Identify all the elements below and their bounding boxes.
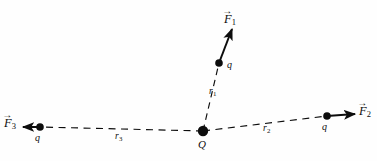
charge-label-q1: q — [227, 60, 232, 70]
force-subscript-F1: 1 — [232, 17, 236, 27]
distance-subscript-r1: 1 — [213, 90, 216, 97]
force-vector-F1 — [219, 29, 232, 63]
force-label-F2: → F 2 — [359, 105, 371, 119]
force-vector-F2 — [327, 114, 355, 116]
radius-line-r3 — [40, 127, 203, 131]
force-label-F1: → F 1 — [224, 13, 236, 27]
force-vector-glyph-stack-F1: → F — [224, 13, 232, 26]
distance-subscript-r3: 3 — [119, 135, 122, 142]
physics-force-diagram: q q q Q r1 r2 r3 → F 1 → F 2 → F 3 — [0, 0, 377, 161]
force-subscript-F2: 2 — [367, 109, 371, 119]
charge-label-Q: Q — [198, 139, 206, 150]
charge-label-q2: q — [322, 122, 327, 132]
vector-arrow-icon-F1: → — [222, 6, 232, 16]
charge-dot-Q — [198, 126, 208, 136]
force-vector-glyph-stack-F3: → F — [4, 117, 12, 130]
distance-label-r1: r1 — [209, 87, 216, 98]
distance-label-r3: r3 — [115, 132, 122, 143]
charge-dot-q1 — [215, 59, 223, 67]
distance-label-r2: r2 — [263, 124, 270, 135]
force-subscript-F3: 3 — [12, 121, 16, 131]
force-vector-glyph-stack-F2: → F — [359, 105, 367, 118]
distance-subscript-r2: 2 — [267, 127, 270, 134]
charge-dot-q2 — [323, 112, 331, 120]
charge-label-q3: q — [35, 133, 40, 143]
charge-dot-q3 — [36, 123, 44, 131]
diagram-canvas — [0, 0, 377, 161]
force-label-F3: → F 3 — [4, 117, 16, 131]
vector-arrow-icon-F3: → — [2, 110, 12, 120]
vector-arrow-icon-F2: → — [357, 98, 367, 108]
